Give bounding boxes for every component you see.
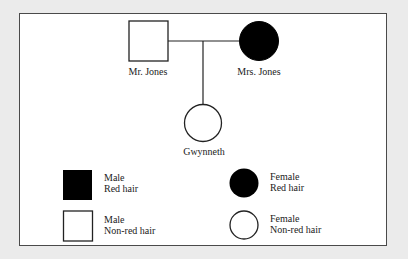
mr-jones-label: Mr. Jones xyxy=(129,66,168,77)
legend-female-red-trait: Red hair xyxy=(270,182,304,193)
legend-female-nonred-trait: Non-red hair xyxy=(270,224,321,235)
gwynneth-circle-icon xyxy=(185,105,222,142)
mr-jones-square-icon xyxy=(129,21,168,61)
legend-female-nonred-sex: Female xyxy=(270,213,321,224)
legend-male-red-icon xyxy=(63,170,92,200)
mrs-jones-label: Mrs. Jones xyxy=(237,66,280,77)
legend-male-red-trait: Red hair xyxy=(104,183,138,194)
legend-male-nonred-text: Male Non-red hair xyxy=(104,214,155,236)
legend-female-red-sex: Female xyxy=(270,171,304,182)
legend-female-red-text: Female Red hair xyxy=(270,171,304,193)
pedigree-chart xyxy=(0,0,408,259)
legend-male-nonred-sex: Male xyxy=(104,214,155,225)
legend-female-red-icon xyxy=(230,169,259,198)
legend-male-nonred-icon xyxy=(64,211,93,241)
legend-male-red-text: Male Red hair xyxy=(104,172,138,194)
legend-female-nonred-icon xyxy=(230,211,258,239)
gwynneth-label: Gwynneth xyxy=(183,146,225,157)
mrs-jones-circle-icon xyxy=(240,22,279,61)
legend-male-nonred-trait: Non-red hair xyxy=(104,225,155,236)
legend-male-red-sex: Male xyxy=(104,172,138,183)
legend-female-nonred-text: Female Non-red hair xyxy=(270,213,321,235)
